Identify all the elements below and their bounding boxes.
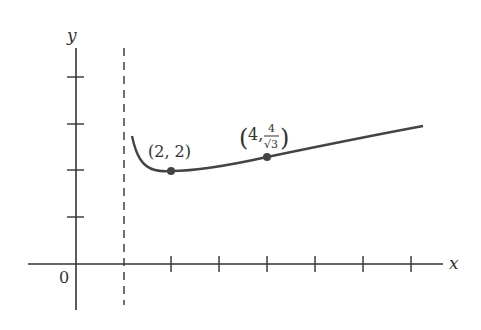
svg-text:): ) [280, 124, 289, 152]
svg-text:(: ( [239, 124, 248, 152]
point-min [167, 167, 175, 175]
chart: y x 0 (2, 2) ( 4, 4 √3 ) [0, 0, 481, 330]
point-min-label: (2, 2) [148, 142, 191, 161]
origin-label: 0 [59, 268, 69, 287]
svg-text:4: 4 [268, 122, 275, 135]
svg-text:√3: √3 [264, 138, 278, 151]
x-axis-label: x [449, 253, 459, 273]
point-4 [263, 153, 271, 161]
point-4-label: ( 4, 4 √3 ) [239, 122, 289, 152]
y-axis-label: y [66, 25, 77, 45]
svg-text:4,: 4, [248, 125, 263, 144]
